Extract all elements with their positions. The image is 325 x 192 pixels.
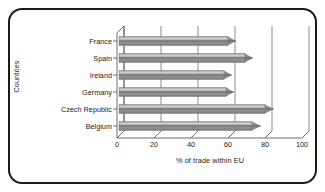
chart-figure: France Spain Ireland Germany Czech Repub…	[0, 0, 325, 192]
x-tick-label-40: 40	[179, 140, 203, 149]
x-tick-label-60: 60	[216, 140, 240, 149]
y-axis-title: Countries	[12, 45, 21, 109]
x-tick-label-80: 80	[253, 140, 277, 149]
x-axis-title: % of trade within EU	[117, 156, 303, 165]
x-tick-label-20: 20	[142, 140, 166, 149]
x-tick-label-0: 0	[105, 140, 129, 149]
x-tick-label-100: 100	[290, 140, 314, 149]
plot-area: France Spain Ireland Germany Czech Repub…	[0, 0, 325, 192]
